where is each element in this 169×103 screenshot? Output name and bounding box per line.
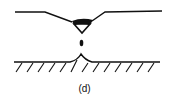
- pendant-drop: [72, 19, 93, 33]
- lower-cone: [14, 54, 160, 62]
- figure-label: (d): [0, 83, 169, 94]
- detached-droplet: [80, 40, 84, 46]
